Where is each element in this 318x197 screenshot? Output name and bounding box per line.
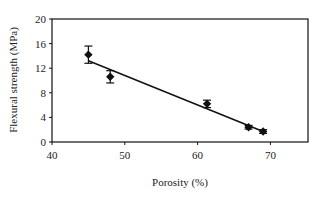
plot-frame (52, 19, 308, 142)
y-tick-label: 4 (41, 111, 47, 123)
x-tick-label: 60 (192, 149, 204, 161)
chart: 40506070 048121620 Porosity (%) Flexural… (0, 0, 318, 197)
diamond-marker (84, 50, 92, 58)
x-tick-label: 40 (47, 149, 59, 161)
y-tick-label: 12 (35, 62, 46, 74)
x-tick-label: 70 (265, 149, 277, 161)
x-axis-title: Porosity (%) (152, 176, 208, 189)
y-axis-title: Flexural strength (MPa) (7, 27, 20, 133)
x-axis: 40506070 (47, 142, 277, 161)
diamond-marker (259, 127, 267, 135)
y-tick-label: 0 (41, 136, 47, 148)
y-tick-label: 8 (41, 87, 47, 99)
trend-line (88, 61, 263, 132)
diamond-marker (106, 73, 114, 81)
y-tick-label: 20 (35, 13, 47, 25)
trendline (88, 61, 263, 132)
y-tick-label: 16 (35, 38, 47, 50)
diamond-marker (203, 100, 211, 108)
x-tick-label: 50 (119, 149, 131, 161)
y-axis: 048121620 (35, 13, 52, 148)
